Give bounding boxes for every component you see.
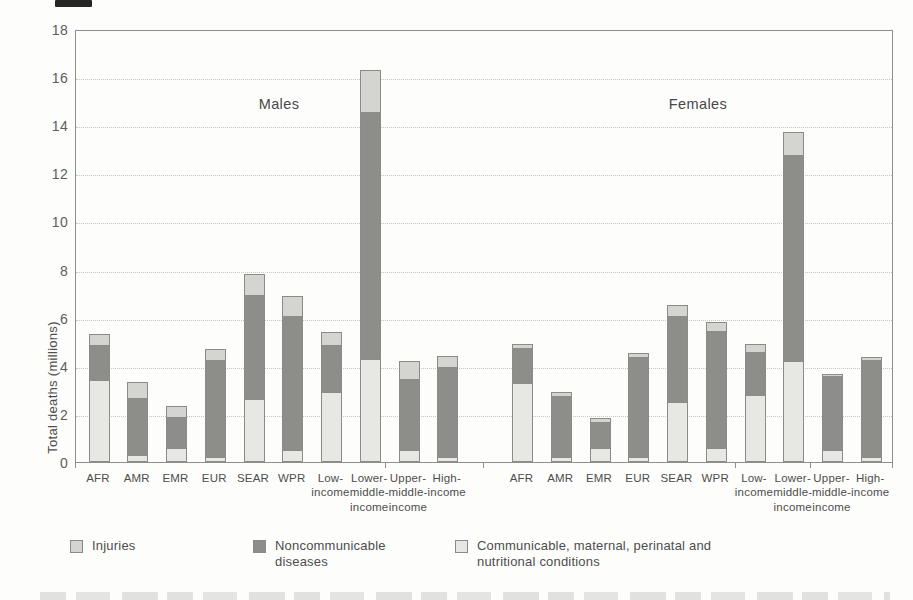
gridline: [76, 79, 892, 80]
plot-area: Males Females: [75, 30, 893, 463]
x-axis-label: EUR: [625, 471, 650, 485]
bar-segment-ncd: [628, 357, 649, 458]
x-axis-label: EMR: [162, 471, 188, 485]
gridline: [76, 368, 892, 369]
bar-males-sear: [244, 275, 265, 462]
bar-segment-ncd: [360, 112, 381, 360]
bar-segment-comm: [745, 395, 766, 462]
bar-segment-comm: [551, 457, 572, 462]
gridline: [76, 416, 892, 417]
bar-segment-ncd: [745, 352, 766, 395]
x-axis-label: SEAR: [660, 471, 692, 485]
bar-segment-comm: [822, 450, 843, 462]
legend-label-injuries: Injuries: [92, 538, 136, 554]
bar-segment-comm: [321, 392, 342, 462]
y-tick-label: 6: [26, 311, 68, 327]
bar-segment-comm: [861, 457, 882, 462]
x-axis-label: WPR: [278, 471, 305, 485]
y-tick-label: 16: [26, 70, 68, 86]
bar-segment-ncd: [512, 348, 533, 384]
bar-segment-comm: [512, 383, 533, 462]
x-axis-tick: [483, 463, 484, 468]
bar-segment-comm: [89, 380, 110, 462]
gridline: [76, 175, 892, 176]
bar-segment-comm: [282, 450, 303, 462]
x-axis-tick: [75, 463, 76, 468]
legend-item-injuries: Injuries: [70, 538, 253, 554]
bar-segment-ncd: [590, 422, 611, 448]
bar-segment-ncd: [244, 295, 265, 401]
bar-males-low-income: [321, 333, 342, 462]
bar-females-upper-middle-income: [822, 375, 843, 462]
bar-segment-ncd: [282, 316, 303, 451]
bar-females-wpr: [706, 323, 727, 462]
x-axis-label: SEAR: [237, 471, 269, 485]
legend: Injuries Noncommunicable diseases Commun…: [70, 538, 739, 570]
bar-males-lower-middle-income: [360, 71, 381, 463]
x-axis-label: EUR: [202, 471, 227, 485]
bar-segment-ncd: [706, 331, 727, 449]
bar-segment-injuries: [399, 361, 420, 380]
bar-segment-comm: [205, 457, 226, 462]
legend-swatch-injuries: [70, 540, 83, 553]
x-axis-label: AMR: [124, 471, 150, 485]
x-axis-label: Upper- middle- income: [812, 471, 851, 514]
x-axis-tick: [735, 463, 736, 468]
bar-females-afr: [512, 345, 533, 462]
bar-segment-comm: [783, 361, 804, 462]
bar-segment-ncd: [205, 360, 226, 459]
group-title-females: Females: [669, 96, 727, 112]
legend-label-noncommunicable: Noncommunicable diseases: [275, 538, 435, 570]
bar-males-afr: [89, 335, 110, 462]
y-tick-label: 12: [26, 166, 68, 182]
bar-segment-comm: [706, 448, 727, 462]
legend-swatch-noncommunicable: [253, 540, 266, 553]
bar-males-amr: [127, 383, 148, 462]
bar-males-high-income: [437, 357, 458, 462]
bar-segment-comm: [399, 450, 420, 462]
bar-females-lower-middle-income: [783, 133, 804, 462]
bar-segment-ncd: [551, 396, 572, 459]
bar-segment-ncd: [783, 155, 804, 362]
x-axis-label: Low- income: [735, 471, 773, 500]
bar-females-sear: [667, 306, 688, 462]
legend-item-noncommunicable: Noncommunicable diseases: [253, 538, 455, 570]
gridline: [76, 272, 892, 273]
x-axis-label: AFR: [510, 471, 534, 485]
gridline: [76, 223, 892, 224]
bar-females-eur: [628, 354, 649, 462]
bar-segment-injuries: [282, 296, 303, 318]
x-axis-tick: [892, 463, 893, 468]
legend-swatch-communicable: [455, 540, 468, 553]
bar-segment-ncd: [89, 345, 110, 381]
bar-segment-ncd: [399, 379, 420, 451]
x-axis-label: AMR: [547, 471, 573, 485]
bar-males-emr: [166, 407, 187, 462]
bar-males-eur: [205, 350, 226, 462]
x-axis-label: Low- income: [311, 471, 349, 500]
figure-stacked-bar-chart: Total deaths (millions) Males Females In…: [0, 0, 913, 600]
bar-segment-comm: [590, 448, 611, 462]
bar-segment-comm: [667, 402, 688, 462]
x-axis-tick: [385, 463, 386, 468]
bar-segment-injuries: [127, 382, 148, 399]
y-tick-label: 4: [26, 359, 68, 375]
y-tick-label: 8: [26, 263, 68, 279]
bar-segment-comm: [244, 399, 265, 462]
y-tick-label: 0: [26, 455, 68, 471]
legend-label-communicable: Communicable, maternal, perinatal and nu…: [477, 538, 739, 570]
x-axis-label: AFR: [86, 471, 110, 485]
bar-segment-comm: [437, 457, 458, 462]
bar-females-high-income: [861, 358, 882, 462]
x-axis-label: High- income: [428, 471, 466, 500]
bar-segment-injuries: [244, 274, 265, 296]
cropped-caption-strip: [40, 592, 890, 600]
bar-females-emr: [590, 419, 611, 462]
bar-segment-ncd: [437, 367, 458, 458]
bar-segment-comm: [127, 455, 148, 462]
bar-segment-ncd: [667, 316, 688, 403]
bar-segment-ncd: [321, 345, 342, 393]
x-axis-label: WPR: [702, 471, 729, 485]
bar-segment-comm: [628, 457, 649, 462]
bar-segment-ncd: [127, 398, 148, 456]
